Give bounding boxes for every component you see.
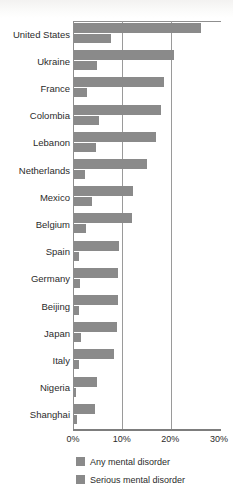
category-label: Nigeria xyxy=(2,383,70,393)
bar-any-mental-disorder xyxy=(74,50,174,60)
bar-any-mental-disorder xyxy=(74,23,201,33)
category-label: Germany xyxy=(2,274,70,284)
bar-serious-mental-disorder xyxy=(74,388,76,397)
bar-group xyxy=(74,130,219,157)
category-axis-labels: United StatesUkraineFranceColombiaLebano… xyxy=(0,21,70,429)
category-label: Japan xyxy=(2,329,70,339)
bar-any-mental-disorder xyxy=(74,132,156,142)
bar-serious-mental-disorder xyxy=(74,306,79,315)
bar-serious-mental-disorder xyxy=(74,88,87,97)
bar-any-mental-disorder xyxy=(74,349,114,359)
category-label: Shanghai xyxy=(2,410,70,420)
category-label: Mexico xyxy=(2,193,70,203)
legend-swatch-any-icon xyxy=(76,457,85,466)
category-label: Colombia xyxy=(2,111,70,121)
legend-label-serious: Serious mental disorder xyxy=(90,475,185,485)
bar-serious-mental-disorder xyxy=(74,224,86,233)
bar-serious-mental-disorder xyxy=(74,116,99,125)
bar-any-mental-disorder xyxy=(74,295,118,305)
bar-group xyxy=(74,402,219,429)
category-label: Ukraine xyxy=(2,57,70,67)
bar-serious-mental-disorder xyxy=(74,415,77,424)
bar-group xyxy=(74,239,219,266)
bar-group xyxy=(74,157,219,184)
bar-any-mental-disorder xyxy=(74,377,97,387)
bar-group xyxy=(74,347,219,374)
x-tick-label: 30% xyxy=(210,433,228,445)
category-label: United States xyxy=(2,30,70,40)
bar-any-mental-disorder xyxy=(74,322,117,332)
legend-item-any: Any mental disorder xyxy=(76,454,226,469)
bar-any-mental-disorder xyxy=(74,268,118,278)
bar-group xyxy=(74,75,219,102)
x-tick-label: 20% xyxy=(161,433,179,445)
bar-serious-mental-disorder xyxy=(74,34,111,43)
bar-any-mental-disorder xyxy=(74,213,132,223)
plot-area xyxy=(73,21,219,429)
legend-swatch-serious-icon xyxy=(76,475,85,484)
bar-group xyxy=(74,21,219,48)
bar-group xyxy=(74,293,219,320)
bar-serious-mental-disorder xyxy=(74,143,96,152)
category-label: Lebanon xyxy=(2,138,70,148)
bar-group xyxy=(74,320,219,347)
bar-any-mental-disorder xyxy=(74,77,164,87)
bar-serious-mental-disorder xyxy=(74,252,79,261)
bar-serious-mental-disorder xyxy=(74,333,81,342)
x-axis-tick-labels: 0%10%20%30% xyxy=(0,433,233,447)
category-label: Italy xyxy=(2,356,70,366)
x-tick-label: 10% xyxy=(113,433,131,445)
bar-group xyxy=(74,184,219,211)
bar-any-mental-disorder xyxy=(74,241,119,251)
bar-serious-mental-disorder xyxy=(74,170,85,179)
bar-serious-mental-disorder xyxy=(74,279,80,288)
bar-serious-mental-disorder xyxy=(74,197,92,206)
legend-item-serious: Serious mental disorder xyxy=(76,472,226,487)
bar-serious-mental-disorder xyxy=(74,360,79,369)
category-label: Spain xyxy=(2,247,70,257)
category-label: Beijing xyxy=(2,302,70,312)
bar-group xyxy=(74,266,219,293)
x-axis-line xyxy=(73,429,221,431)
bar-any-mental-disorder xyxy=(74,159,147,169)
bar-group xyxy=(74,375,219,402)
bar-group xyxy=(74,211,219,238)
x-tick-label: 0% xyxy=(66,433,79,445)
category-label: France xyxy=(2,84,70,94)
category-label: Belgium xyxy=(2,220,70,230)
legend-label-any: Any mental disorder xyxy=(90,457,170,467)
bar-group xyxy=(74,48,219,75)
bar-group xyxy=(74,103,219,130)
bar-serious-mental-disorder xyxy=(74,61,97,70)
category-label: Netherlands xyxy=(2,166,70,176)
bar-any-mental-disorder xyxy=(74,186,133,196)
mental-disorder-prevalence-chart: United StatesUkraineFranceColombiaLebano… xyxy=(0,0,233,501)
bar-any-mental-disorder xyxy=(74,105,161,115)
chart-legend: Any mental disorder Serious mental disor… xyxy=(76,454,226,490)
bar-any-mental-disorder xyxy=(74,404,95,414)
